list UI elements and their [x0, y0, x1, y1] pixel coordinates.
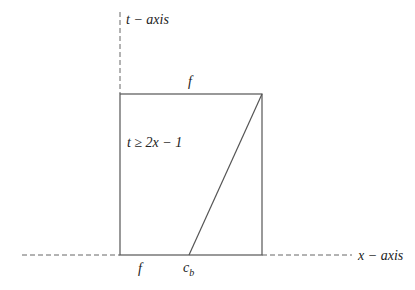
bottom-point-label: cb — [183, 260, 194, 278]
boundary-line — [189, 94, 262, 255]
x-axis-label: x − axis — [357, 248, 404, 263]
top-edge-label: f — [188, 74, 194, 89]
region-label: t ≥ 2x − 1 — [127, 135, 182, 150]
t-axis-label: t − axis — [126, 12, 169, 27]
bottom-left-label: f — [138, 261, 144, 276]
unit-square — [120, 94, 262, 255]
diagram-canvas: t − axis x − axis f t ≥ 2x − 1 f cb — [0, 0, 415, 290]
